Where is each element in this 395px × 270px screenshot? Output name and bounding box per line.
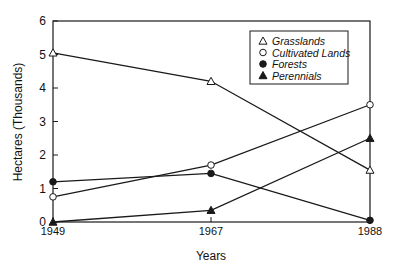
x-tick-label: 1949 xyxy=(41,225,65,237)
open-circle-marker-icon xyxy=(50,194,57,201)
filled-circle-marker-icon xyxy=(50,179,57,186)
filled-circle-marker-icon xyxy=(367,217,374,224)
filled-circle-marker-icon xyxy=(260,61,267,68)
y-tick-label: 4 xyxy=(39,81,46,95)
y-tick-label: 5 xyxy=(39,48,46,62)
series-cultivated-lands xyxy=(50,101,374,200)
legend-label: Cultivated Lands xyxy=(272,47,351,59)
open-circle-marker-icon xyxy=(208,162,215,169)
series-line xyxy=(53,105,370,197)
legend-label: Grasslands xyxy=(272,35,326,47)
y-tick-label: 1 xyxy=(39,182,46,196)
open-circle-marker-icon xyxy=(367,101,374,108)
series-forests xyxy=(50,170,374,224)
legend: GrasslandsCultivated LandsForestsPerenni… xyxy=(250,31,351,84)
open-triangle-marker-icon xyxy=(366,166,374,173)
y-tick-label: 3 xyxy=(39,115,46,129)
x-tick-label: 1967 xyxy=(199,225,223,237)
x-tick-label: 1988 xyxy=(358,225,382,237)
y-tick-label: 2 xyxy=(39,148,46,162)
x-axis-label: Years xyxy=(196,249,226,263)
filled-triangle-marker-icon xyxy=(366,134,374,141)
y-tick-label: 6 xyxy=(39,14,46,28)
open-circle-marker-icon xyxy=(260,49,267,56)
open-triangle-marker-icon xyxy=(49,49,57,56)
x-axis: 194919671988 xyxy=(41,217,382,237)
legend-label: Perennials xyxy=(272,70,322,82)
line-chart: 0123456 194919671988 Years Hectares (Tho… xyxy=(0,0,395,270)
filled-circle-marker-icon xyxy=(208,170,215,177)
y-axis-label: Hectares (Thousands) xyxy=(11,63,25,182)
legend-label: Forests xyxy=(272,58,308,70)
